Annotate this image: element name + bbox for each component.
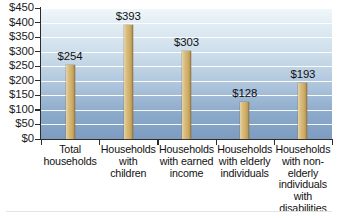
bar bbox=[240, 102, 249, 139]
x-category-label-line: with elderly bbox=[213, 156, 277, 168]
y-tick-mark bbox=[35, 37, 41, 38]
x-category-label-line: with non- bbox=[271, 156, 335, 168]
bar-value-label: $193 bbox=[279, 68, 327, 80]
x-category-label-line: disabilities bbox=[271, 203, 335, 215]
y-tick-mark bbox=[35, 8, 41, 9]
y-axis-line bbox=[40, 7, 41, 140]
x-category-label: Totalhouseholds bbox=[38, 144, 102, 168]
x-category-label: Householdswith elderlyindividuals bbox=[213, 144, 277, 179]
y-tick-mark bbox=[35, 95, 41, 96]
y-tick-label: $150 bbox=[0, 88, 34, 100]
y-tick-mark bbox=[35, 109, 41, 110]
bottom-rule bbox=[6, 211, 332, 212]
y-tick-mark bbox=[35, 80, 41, 81]
y-tick-label: $250 bbox=[0, 59, 34, 71]
y-axis-labels: $0$50$100$150$200$250$300$350$400$450 bbox=[0, 0, 34, 218]
bar bbox=[66, 65, 75, 139]
x-category-label-line: individuals bbox=[213, 168, 277, 180]
y-tick-label: $450 bbox=[0, 1, 34, 13]
bar-value-label: $303 bbox=[163, 36, 211, 48]
bar bbox=[298, 83, 307, 139]
y-tick-label: $0 bbox=[0, 132, 34, 144]
x-category-label-line: with earned bbox=[154, 156, 218, 168]
x-category-label: Householdswith earnedincome bbox=[154, 144, 218, 179]
y-tick-label: $350 bbox=[0, 30, 34, 42]
gridline bbox=[41, 23, 332, 24]
x-axis-category-labels: TotalhouseholdsHouseholdswithchildrenHou… bbox=[41, 144, 333, 218]
y-tick-label: $400 bbox=[0, 16, 34, 28]
x-category-label-line: income bbox=[154, 168, 218, 180]
y-tick-label: $50 bbox=[0, 117, 34, 129]
y-tick-label: $200 bbox=[0, 74, 34, 86]
y-tick-mark bbox=[35, 51, 41, 52]
x-category-label-line: children bbox=[96, 168, 160, 180]
y-tick-label: $300 bbox=[0, 45, 34, 57]
bar bbox=[182, 51, 191, 139]
y-tick-mark bbox=[35, 124, 41, 125]
x-axis-line bbox=[40, 139, 333, 140]
x-category-label: Householdswith non-elderlyindividualswit… bbox=[271, 144, 335, 215]
gridline bbox=[41, 8, 332, 9]
x-category-label-line: households bbox=[38, 156, 102, 168]
bar-value-label: $254 bbox=[46, 50, 94, 62]
bar-value-label: $393 bbox=[104, 10, 152, 22]
x-category-label-line: with bbox=[96, 156, 160, 168]
bar-value-label: $128 bbox=[221, 87, 269, 99]
bar bbox=[124, 25, 133, 139]
x-category-label: Householdswithchildren bbox=[96, 144, 160, 179]
y-tick-mark bbox=[35, 22, 41, 23]
bar-chart: $0$50$100$150$200$250$300$350$400$450 $2… bbox=[0, 0, 338, 218]
y-tick-mark bbox=[35, 66, 41, 67]
y-tick-label: $100 bbox=[0, 103, 34, 115]
